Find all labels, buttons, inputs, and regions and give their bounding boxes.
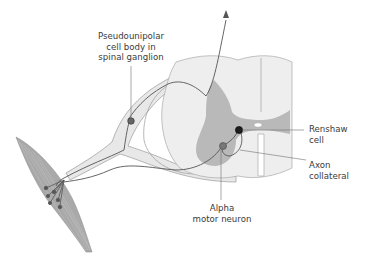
- label-line: cell: [309, 135, 348, 146]
- alpha-motor-neuron: [220, 143, 227, 150]
- label-line: Alpha: [186, 203, 258, 214]
- label-line: motor neuron: [186, 214, 258, 225]
- label-axon-collateral: Axon collateral: [309, 160, 349, 181]
- renshaw-cell: [235, 126, 242, 133]
- spinal-cord: [162, 56, 292, 178]
- label-alpha-motor-neuron: Alpha motor neuron: [186, 203, 258, 224]
- label-renshaw-cell: Renshaw cell: [309, 124, 348, 145]
- central-canal: [254, 123, 262, 127]
- label-line: Axon: [309, 160, 349, 171]
- label-pseudounipolar-cell-body: Pseudounipolar cell body in spinal gangl…: [93, 31, 169, 63]
- label-line: Pseudounipolar: [93, 31, 169, 42]
- pseudounipolar-cell-body: [128, 118, 135, 125]
- label-line: spinal ganglion: [93, 52, 169, 63]
- label-line: collateral: [309, 171, 349, 182]
- label-line: Renshaw: [309, 124, 348, 135]
- ascending-arrow-icon: [223, 10, 229, 18]
- skeletal-muscle: [16, 137, 92, 252]
- label-line: cell body in: [93, 42, 169, 53]
